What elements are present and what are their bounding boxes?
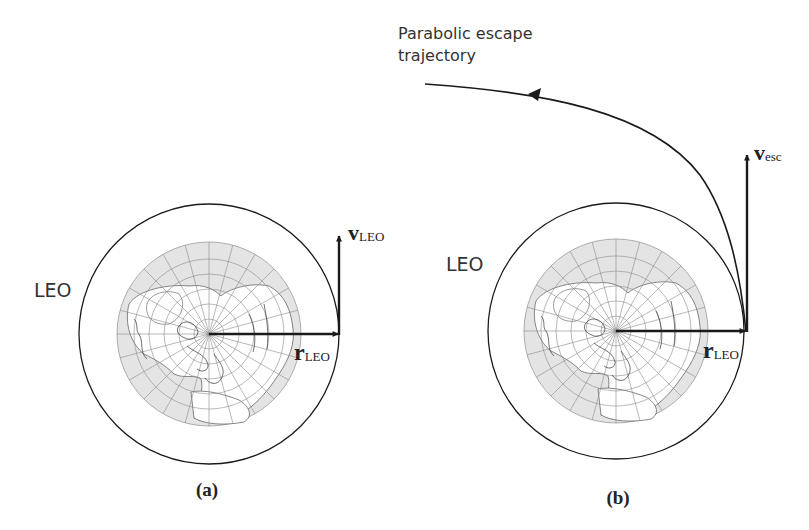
orbit-label: LEO — [446, 253, 484, 275]
panel-caption: (b) — [606, 487, 629, 509]
position-vector-label: rLEO — [294, 339, 330, 365]
diagram-canvas: LEO rLEO vLEO (a) LEO Parabolic escape t… — [0, 0, 809, 530]
trajectory-label: Parabolic escape trajectory — [398, 24, 538, 65]
position-vector-label: rLEO — [703, 337, 739, 363]
panel-b: LEO Parabolic escape trajectory rLEO ves… — [398, 24, 782, 509]
panel-caption: (a) — [196, 479, 218, 501]
orbit-label: LEO — [34, 279, 72, 301]
velocity-vector-label: vLEO — [348, 220, 384, 245]
panel-a: LEO rLEO vLEO (a) — [34, 204, 384, 501]
velocity-vector-label: vesc — [754, 140, 782, 165]
trajectory-direction-arrow-icon — [528, 88, 541, 101]
